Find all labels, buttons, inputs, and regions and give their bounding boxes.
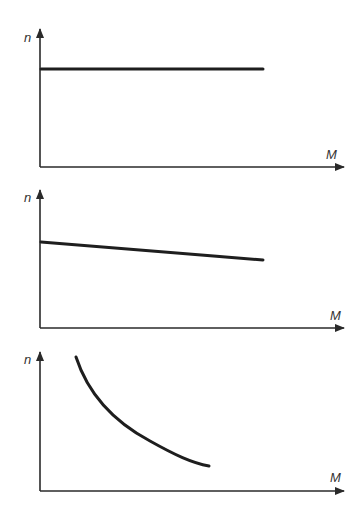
x-axis-label: M — [326, 147, 337, 162]
speed-curve — [76, 357, 209, 466]
y-axis-label: n — [24, 30, 31, 45]
panel-1-constant-speed: n M — [24, 29, 344, 167]
panel-2-shunt-speed: n M — [24, 190, 344, 328]
y-axis-label: n — [24, 190, 31, 205]
x-axis-label: M — [330, 308, 341, 323]
y-axis-label: n — [24, 352, 31, 367]
chart-figure: n M n M n M — [0, 0, 362, 523]
x-axis-label: M — [330, 470, 341, 485]
speed-curve — [41, 242, 263, 260]
panel-3-series-speed: n M — [24, 352, 344, 491]
